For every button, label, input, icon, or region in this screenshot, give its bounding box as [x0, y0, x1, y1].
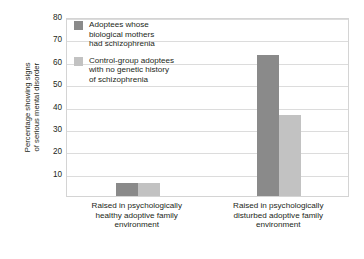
legend-entry-1: Adoptees whose biological mothers had sc…	[74, 20, 249, 49]
y-axis-tick-labels: 8070605040302010	[36, 0, 62, 259]
bar-series1-cat2	[257, 55, 279, 196]
y-axis-tick-50: 50	[40, 81, 62, 89]
y-axis-tick-60: 60	[40, 59, 62, 67]
x-axis-category-label-2: Raised in psychologically disturbed adop…	[208, 201, 350, 230]
y-axis-tick-30: 30	[40, 126, 62, 134]
legend-swatch-icon-2	[74, 57, 83, 66]
bar-series2-cat1	[138, 183, 160, 196]
bar-series2-cat2	[279, 115, 301, 196]
bar-chart: Percentage showing signs of serious ment…	[0, 0, 364, 259]
y-axis-tick-40: 40	[40, 104, 62, 112]
y-axis-tick-80: 80	[40, 14, 62, 22]
bar-series1-cat1	[116, 183, 138, 196]
legend-label-2: Control-group adoptees with no genetic h…	[89, 56, 174, 85]
y-axis-tick-20: 20	[40, 148, 62, 156]
y-axis-tick-10: 10	[40, 171, 62, 179]
legend-swatch-icon-1	[74, 21, 83, 30]
x-axis-category-label-1: Raised in psychologically healthy adopti…	[66, 201, 208, 230]
legend-entry-2: Control-group adoptees with no genetic h…	[74, 56, 249, 85]
y-axis-tick-70: 70	[40, 36, 62, 44]
chart-legend: Adoptees whose biological mothers had sc…	[74, 20, 249, 92]
legend-label-1: Adoptees whose biological mothers had sc…	[89, 20, 155, 49]
